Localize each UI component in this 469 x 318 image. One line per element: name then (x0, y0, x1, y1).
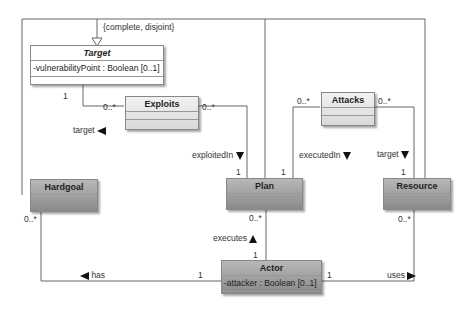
role-exploitedin-text: exploitedIn (192, 150, 233, 160)
mult-exploits-plan-plan: 1 (236, 167, 241, 177)
role-exploitedin-label: exploitedIn (192, 150, 244, 160)
class-actor-name: Actor (222, 261, 321, 276)
role-executes-text: executes (213, 233, 247, 243)
mult-actor-hardgoal-actor: 1 (198, 270, 203, 280)
role-has-text: has (91, 270, 105, 280)
class-plan[interactable]: Plan (226, 178, 303, 210)
class-exploits-name: Exploits (126, 97, 198, 112)
assoc-hardgoal-actor (41, 211, 221, 281)
direction-down-icon (343, 152, 351, 160)
class-resource[interactable]: Resource (383, 178, 451, 210)
role-target-label: target (73, 125, 106, 135)
class-attacks[interactable]: Attacks (321, 92, 375, 126)
mult-attacks-plan-attacks: 0..* (297, 96, 310, 106)
mult-attacks-resource-resource: 1 (401, 167, 406, 177)
direction-right-icon (407, 272, 416, 280)
mult-attacks-resource-attacks: 0..* (378, 96, 391, 106)
role-executedin-label: executedIn (299, 150, 351, 160)
mult-target-exploits-target: 1 (63, 91, 68, 101)
role-uses-text: uses (387, 270, 405, 280)
class-actor[interactable]: Actor -attacker : Boolean [0..1] (221, 260, 322, 294)
mult-attacks-plan-plan: 1 (281, 167, 286, 177)
class-hardgoal[interactable]: Hardgoal (30, 179, 98, 212)
role-target-resource-label: target (377, 149, 409, 159)
class-plan-name: Plan (227, 179, 302, 194)
class-hardgoal-name: Hardgoal (31, 180, 97, 195)
class-target-attribute: -vulnerabilityPoint : Boolean [0..1] (31, 61, 163, 76)
direction-up-icon (249, 235, 257, 243)
assoc-attacks-plan (293, 107, 320, 178)
direction-left-icon (80, 272, 89, 280)
class-resource-name: Resource (384, 179, 450, 194)
mult-actor-resource-actor: 1 (327, 270, 332, 280)
assoc-attacks-resource (375, 107, 414, 178)
mult-exploits-plan-exploits: 0..* (202, 102, 215, 112)
role-target-text: target (73, 125, 95, 135)
class-target[interactable]: Target -vulnerabilityPoint : Boolean [0.… (30, 45, 164, 85)
class-target-name: Target (31, 46, 163, 61)
generalization-constraint: {complete, disjoint} (103, 22, 174, 32)
role-executes-label: executes (213, 233, 257, 243)
role-uses-label: uses (387, 270, 416, 280)
mult-target-exploits-exploits: 0..* (103, 102, 116, 112)
direction-down-icon (236, 152, 244, 160)
role-target-resource-text: target (377, 149, 399, 159)
mult-actor-resource-resource: 0..* (398, 214, 411, 224)
mult-actor-plan-plan: 0..* (249, 213, 262, 223)
class-actor-attribute: -attacker : Boolean [0..1] (222, 276, 321, 291)
role-has-label: has (80, 270, 105, 280)
mult-actor-plan-actor: 1 (253, 250, 258, 260)
class-attacks-name: Attacks (322, 93, 374, 108)
mult-actor-hardgoal-hardgoal: 0..* (24, 214, 37, 224)
direction-down-icon (401, 151, 409, 159)
role-executedin-text: executedIn (299, 150, 341, 160)
direction-left-icon (97, 127, 106, 135)
class-exploits[interactable]: Exploits (125, 96, 199, 130)
